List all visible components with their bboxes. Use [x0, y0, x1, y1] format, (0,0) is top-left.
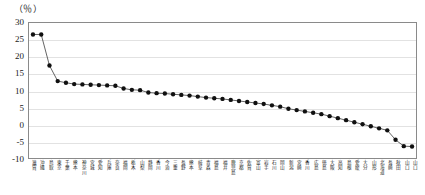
data-point — [327, 114, 331, 118]
data-point — [31, 32, 35, 36]
data-point — [179, 93, 183, 97]
x-axis-tick-label: 岡山 — [276, 160, 284, 170]
x-axis-tick-label: 大分 — [359, 160, 367, 170]
x-axis-tick-label: 熊本 — [185, 160, 193, 170]
x-axis-tick-label: 長野 — [177, 160, 185, 170]
x-axis-tick-label: 山梨 — [136, 160, 144, 170]
x-axis-tick-label: 兵庫 — [103, 160, 111, 170]
x-axis-tick-label: 山口 — [401, 160, 409, 170]
data-point — [196, 94, 200, 98]
x-axis-tick-label: 栃木 — [127, 160, 135, 170]
x-axis-tick-label: 京都 — [235, 160, 243, 170]
data-point — [97, 83, 101, 87]
data-point — [319, 112, 323, 116]
x-axis-tick-label: 秋田 — [392, 160, 400, 170]
x-axis-tick-label: 千葉 — [61, 160, 69, 170]
x-axis-tick-label: 佐賀 — [243, 160, 251, 170]
x-axis-tick-label: 高知 — [334, 160, 342, 170]
x-axis-tick-label: 愛媛 — [351, 160, 359, 170]
data-point — [105, 83, 109, 87]
x-axis-tick-label: 島根 — [343, 160, 351, 170]
data-point — [237, 99, 241, 103]
data-point — [303, 109, 307, 113]
x-axis-tick-label: 滋賀 — [28, 160, 36, 170]
x-axis-tick-label: 奈良 — [111, 160, 119, 170]
x-axis-tick-label: 福井 — [219, 160, 227, 170]
x-axis-tick-label: 広島 — [310, 160, 318, 170]
data-point — [352, 120, 356, 124]
series-line — [33, 34, 412, 146]
x-axis-tick-label: 鹿児島 — [227, 160, 235, 175]
y-axis-tick-label: -10 — [12, 155, 24, 164]
x-axis-tick-label: 宮崎 — [293, 160, 301, 170]
line-chart: （％） 302520151050-5-10 滋賀沖縄鳥取東京千葉熊本神奈川宮城愛… — [0, 0, 425, 195]
data-point — [56, 79, 60, 83]
data-point — [262, 102, 266, 106]
data-point — [80, 82, 84, 86]
data-point — [344, 118, 348, 122]
data-point — [402, 144, 406, 148]
data-point — [39, 32, 43, 36]
y-axis-tick-label: -5 — [17, 137, 25, 146]
y-axis-tick-label: 30 — [15, 18, 24, 27]
data-point — [385, 128, 389, 132]
x-axis-tick-label: 富山 — [252, 160, 260, 170]
data-point — [47, 63, 51, 67]
y-axis-unit-label: （％） — [14, 2, 42, 15]
x-axis-tick-label: 山形 — [368, 160, 376, 170]
data-point — [130, 88, 134, 92]
y-axis-tick-label: 15 — [15, 69, 24, 78]
x-axis-tick-label: 東京 — [53, 160, 61, 170]
y-axis-tick-label: 0 — [20, 120, 25, 129]
data-point — [88, 83, 92, 87]
data-point — [171, 92, 175, 96]
data-point — [410, 144, 414, 148]
data-point — [146, 90, 150, 94]
data-point — [278, 105, 282, 109]
data-point — [204, 95, 208, 99]
data-point — [270, 103, 274, 107]
x-axis-tick-label: 熊本 — [69, 160, 77, 170]
x-axis: 滋賀沖縄鳥取東京千葉熊本神奈川宮城愛知兵庫奈良福岡栃木山梨静岡香川今治三重長野熊… — [28, 160, 417, 195]
data-point — [336, 116, 340, 120]
x-axis-tick-label: 福島 — [210, 160, 218, 170]
data-point — [311, 111, 315, 115]
data-point — [64, 81, 68, 85]
x-axis-tick-label: 香川 — [152, 160, 160, 170]
data-point — [121, 86, 125, 90]
data-point — [377, 126, 381, 130]
x-axis-tick-label: 三重 — [169, 160, 177, 170]
data-point — [369, 124, 373, 128]
x-axis-tick-label: 愛知 — [94, 160, 102, 170]
data-point — [294, 108, 298, 112]
data-point — [113, 84, 117, 88]
data-point — [253, 101, 257, 105]
x-axis-tick-label: 山口 — [409, 160, 417, 170]
x-axis-tick-label: 新潟 — [285, 160, 293, 170]
data-point — [138, 88, 142, 92]
x-axis-tick-label: 静岡 — [144, 160, 152, 170]
data-point — [220, 97, 224, 101]
data-point — [360, 122, 364, 126]
x-axis-tick-label: 福岡 — [119, 160, 127, 170]
y-axis-tick-label: 5 — [20, 103, 25, 112]
data-point — [286, 107, 290, 111]
x-axis-tick-label: 沖縄 — [36, 160, 44, 170]
data-point — [154, 91, 158, 95]
data-point — [393, 138, 397, 142]
y-axis-tick-label: 20 — [15, 52, 24, 61]
data-point — [229, 98, 233, 102]
x-axis-tick-label: 大阪 — [326, 160, 334, 170]
x-axis-tick-label: 石川 — [268, 160, 276, 170]
x-axis-tick-label: 長崎 — [384, 160, 392, 170]
data-point — [245, 100, 249, 104]
x-axis-tick-label: 今治 — [161, 160, 169, 170]
y-axis-tick-label: 10 — [15, 86, 24, 95]
data-point — [187, 93, 191, 97]
plot-area — [28, 22, 417, 159]
data-series — [29, 23, 416, 158]
x-axis-tick-label: 宮城 — [86, 160, 94, 170]
x-axis-tick-label: 岐阜 — [194, 160, 202, 170]
data-point — [212, 96, 216, 100]
x-axis-tick-label: 徳島 — [318, 160, 326, 170]
